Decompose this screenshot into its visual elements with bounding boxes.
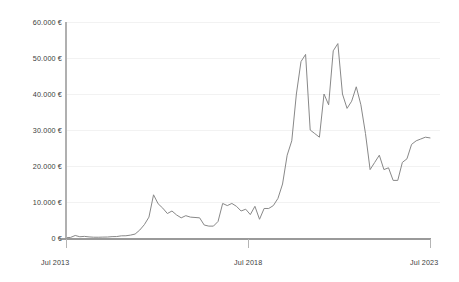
y-axis-tick-label: 60.000 € bbox=[33, 18, 62, 27]
x-axis-tick-mark bbox=[248, 239, 249, 248]
y-axis-line bbox=[65, 22, 67, 239]
y-axis-tick-label: 40.000 € bbox=[33, 90, 62, 99]
y-axis-tick-label: 20.000 € bbox=[33, 162, 62, 171]
y-axis-tick-label: 0 € bbox=[52, 234, 62, 243]
x-axis-tick-label: Jul 2018 bbox=[234, 258, 262, 267]
y-axis-tick-label: 30.000 € bbox=[33, 126, 62, 135]
x-axis-tick-mark bbox=[430, 239, 431, 248]
price-line-path bbox=[66, 44, 430, 238]
x-axis-line bbox=[60, 238, 431, 240]
x-axis-tick-label: Jul 2023 bbox=[410, 258, 438, 267]
y-axis-tick-label: 10.000 € bbox=[33, 198, 62, 207]
plot-area bbox=[66, 22, 440, 238]
y-axis-tick-label: 50.000 € bbox=[33, 54, 62, 63]
x-axis-tick-mark bbox=[66, 239, 67, 248]
line-series bbox=[66, 22, 440, 238]
chart-container: 0 €10.000 €20.000 €30.000 €40.000 €50.00… bbox=[0, 0, 459, 282]
x-axis-tick-label: Jul 2013 bbox=[41, 258, 69, 267]
